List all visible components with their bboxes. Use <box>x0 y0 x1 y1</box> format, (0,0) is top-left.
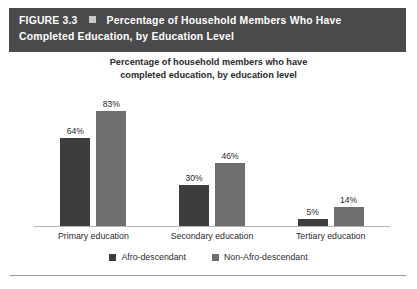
figure-header-line-2: Completed Education, by Education Level <box>19 29 396 45</box>
legend-label: Non-Afro-descendant <box>224 252 308 262</box>
bar-rect[interactable] <box>298 219 328 226</box>
bar-item[interactable]: 46% <box>215 147 245 226</box>
bar-rect[interactable] <box>60 138 90 226</box>
bar-group: 5%14% <box>271 88 390 226</box>
bar-item[interactable]: 5% <box>298 203 328 226</box>
bar-value-label: 46% <box>200 151 260 161</box>
legend-item[interactable]: Non-Afro-descendant <box>212 252 308 262</box>
x-axis-line <box>34 226 390 227</box>
bar-rect[interactable] <box>179 185 209 226</box>
figure-title-line-2: Completed Education, by Education Level <box>19 31 234 42</box>
category-label: Primary education <box>34 231 153 241</box>
bar-item[interactable]: 64% <box>60 122 90 226</box>
category-label: Tertiary education <box>271 231 390 241</box>
bar-item[interactable]: 83% <box>96 95 126 226</box>
bar-item[interactable]: 14% <box>334 191 364 226</box>
bar-item[interactable]: 30% <box>179 169 209 226</box>
legend-swatch-icon <box>212 254 219 261</box>
legend-item[interactable]: Afro-descendant <box>109 252 186 262</box>
bar-value-label: 83% <box>81 99 141 109</box>
legend-label: Afro-descendant <box>121 252 186 262</box>
bar-group: 64%83% <box>34 88 153 226</box>
chart-title-line-1: Percentage of household members who have <box>0 56 417 69</box>
bar-rect[interactable] <box>215 163 245 226</box>
bar-rect[interactable] <box>96 111 126 226</box>
legend-swatch-icon <box>109 254 116 261</box>
figure-number: FIGURE 3.3 <box>19 15 78 26</box>
chart-title-line-2: completed education, by education level <box>0 69 417 82</box>
figure-bottom-rule <box>10 275 406 276</box>
figure-title-line-1: Percentage of Household Members Who Have <box>107 15 342 26</box>
x-axis-category-labels: Primary educationSecondary educationTert… <box>34 231 390 245</box>
category-label: Secondary education <box>153 231 272 241</box>
figure-header-bar: FIGURE 3.3Percentage of Household Member… <box>9 8 406 52</box>
chart-title: Percentage of household members who have… <box>0 56 417 81</box>
figure-container: FIGURE 3.3Percentage of Household Member… <box>0 0 417 289</box>
bar-group: 30%46% <box>153 88 272 226</box>
chart-legend: Afro-descendantNon-Afro-descendant <box>0 252 417 262</box>
bar-rect[interactable] <box>334 207 364 226</box>
chart-plot-area: 64%83%30%46%5%14% <box>34 88 390 227</box>
bar-value-label: 14% <box>319 195 379 205</box>
figure-header-line-1: FIGURE 3.3Percentage of Household Member… <box>19 13 396 29</box>
square-bullet-icon <box>89 16 96 23</box>
